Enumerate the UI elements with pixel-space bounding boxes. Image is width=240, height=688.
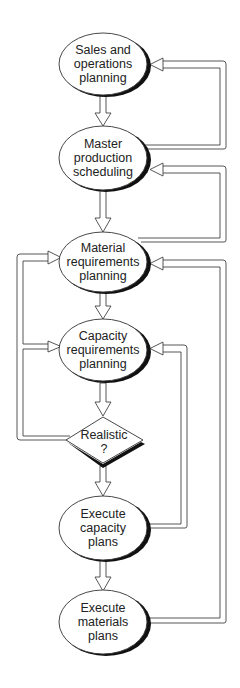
label-sales-operations-planning: Sales and operations planning [74, 43, 132, 85]
label-realistic-decision: Realistic ? [80, 428, 127, 456]
arrow-crp-to-realistic [95, 383, 111, 416]
label-execute-materials-plans: Execute materials plans [78, 601, 129, 643]
label-execute-capacity-plans: Execute capacity plans [80, 507, 126, 549]
feedback-exec-materials-to-mrp [149, 257, 226, 623]
feedback-mrp-to-mps [138, 163, 226, 242]
arrow-exec-capacity-to-exec-materials [95, 560, 111, 591]
label-material-requirements-planning: Material requirements planning [67, 241, 140, 283]
arrow-mrp-to-crp [95, 292, 111, 319]
arrow-mps-to-mrp [95, 190, 111, 232]
label-master-production-scheduling: Master production scheduling [73, 137, 133, 179]
label-capacity-requirements-planning: Capacity requirements planning [67, 329, 140, 371]
arrow-realistic-to-exec-capacity [95, 466, 111, 496]
feedback-mps-to-sop [138, 58, 226, 149]
arrow-sop-to-mps [95, 96, 111, 126]
feedback-exec-capacity-to-crp [148, 342, 187, 528]
